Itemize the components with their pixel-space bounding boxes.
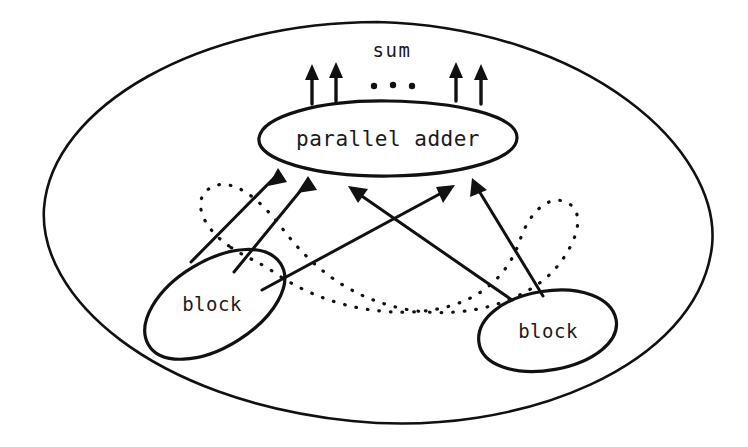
- block-left-label: block: [182, 293, 242, 315]
- input-arrow-5-shaft: [476, 186, 543, 296]
- node-block-right[interactable]: block: [473, 281, 623, 381]
- outer-enclosure-group: [44, 22, 713, 423]
- sum-output-arrows: [305, 62, 488, 104]
- input-arrow-2-shaft: [234, 184, 306, 272]
- block-to-adder-arrows: [191, 168, 543, 300]
- ellipsis-dot-2: [390, 82, 396, 88]
- ellipsis-dot-3: [409, 83, 415, 89]
- input-arrow-1-shaft: [191, 176, 276, 262]
- node-parallel-adder[interactable]: parallel adder: [259, 101, 517, 176]
- input-arrow-1-head: [268, 168, 287, 186]
- sum-ellipsis-dots: [371, 82, 415, 89]
- sum-arrow-1: [305, 64, 319, 104]
- sum-arrow-3-head: [449, 62, 463, 78]
- sum-label: sum: [373, 39, 412, 61]
- parallel-adder-label: parallel adder: [296, 127, 480, 151]
- input-arrow-5-head: [470, 178, 487, 197]
- sum-arrow-4: [474, 64, 488, 104]
- input-arrow-2-head: [297, 176, 317, 193]
- sum-arrow-2-head: [329, 62, 343, 78]
- block-right-label: block: [518, 320, 578, 342]
- outer-enclosure-ellipse: [44, 22, 713, 423]
- sum-arrow-3: [449, 62, 463, 101]
- node-block-left[interactable]: block: [126, 227, 303, 381]
- sum-arrow-4-head: [474, 64, 488, 80]
- ellipsis-dot-1: [371, 83, 377, 89]
- input-arrow-4-head: [348, 186, 368, 203]
- diagram-root: parallel adder block block: [0, 0, 748, 447]
- input-arrow-1: [191, 168, 287, 262]
- sum-arrow-2: [329, 62, 343, 101]
- sum-arrow-1-head: [305, 64, 319, 80]
- diagram-canvas: parallel adder block block: [0, 0, 748, 447]
